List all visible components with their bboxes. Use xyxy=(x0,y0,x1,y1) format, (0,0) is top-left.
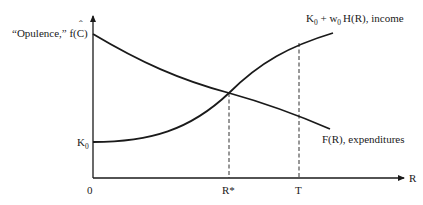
y-axis-label: “Opulence,” f(C) xyxy=(12,27,88,40)
x-axis-label: R xyxy=(409,172,417,184)
t-label: T xyxy=(295,184,302,196)
income-curve xyxy=(93,33,333,142)
opulence-diagram: “Opulence,” f(C) ˆ K0 0 R R* T K0 + w0H(… xyxy=(0,0,423,205)
origin-label: 0 xyxy=(87,184,93,196)
k0-label: K0 xyxy=(77,136,89,151)
y-axis-label-hat: ˆ xyxy=(79,18,83,30)
expenditure-curve xyxy=(93,34,330,129)
r-star-label: R* xyxy=(222,184,235,196)
income-curve-label: K0 + w0H(R), income xyxy=(306,12,404,27)
expenditure-curve-label: F(R), expenditures xyxy=(322,133,404,146)
